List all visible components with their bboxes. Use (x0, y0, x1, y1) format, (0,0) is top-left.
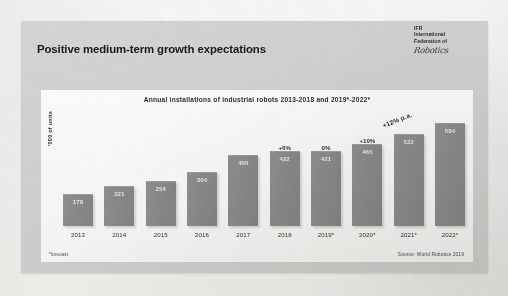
bar-value-label: 422 (270, 155, 300, 162)
bar-growth-label: +10% (352, 137, 382, 144)
bar-column: 2212014 (104, 114, 134, 226)
bar-value-label: 304 (187, 176, 217, 183)
bar-column: 5842022* (435, 114, 465, 226)
chart-footnote: *forecast (49, 252, 68, 257)
x-axis-tick-label: 2013 (59, 231, 97, 238)
bar-column: 422+6%2018 (270, 114, 300, 226)
x-axis-tick-label: 2018 (266, 231, 304, 238)
presentation-slide: Positive medium-term growth expectations… (21, 21, 488, 273)
bar-column: 2542015 (146, 114, 176, 226)
bar-value-label: 221 (104, 190, 134, 197)
bar: 400 (228, 155, 258, 226)
logo-line-federation-of: Federation of (414, 38, 474, 44)
bar-value-label: 254 (146, 185, 176, 192)
slide-headline: Positive medium-term growth expectations (37, 43, 266, 55)
bar-value-label: 522 (394, 138, 424, 145)
chart-panel: Annual installations of industrial robot… (41, 90, 473, 262)
bar: 584 (435, 123, 465, 226)
bar: 522 (394, 134, 424, 226)
bar-value-label: 584 (435, 127, 465, 134)
x-axis-tick-label: 2014 (100, 231, 138, 238)
logo-wordmark-robotics: Robotics (413, 45, 475, 56)
chart-title: Annual installations of industrial robot… (41, 96, 473, 103)
x-axis-tick-label: 2016 (183, 231, 221, 238)
bar: 421 (311, 151, 341, 226)
bar: 304 (187, 172, 217, 226)
x-axis-tick-label: 2022* (431, 231, 469, 238)
bar-growth-label: +6% (270, 144, 300, 151)
bar-value-label: 400 (228, 159, 258, 166)
bar-value-label: 178 (63, 198, 93, 205)
bar-column: 3042016 (187, 114, 217, 226)
y-axis-label: '000 of units (47, 86, 53, 146)
x-axis-tick-label: 2019* (307, 231, 345, 238)
bar: 254 (146, 181, 176, 226)
bar: 221 (104, 186, 134, 226)
chart-source: Source: World Robotics 2019 (398, 252, 464, 257)
bar-column: 465+10%2020* (352, 114, 382, 226)
x-axis-tick-label: 2015 (142, 231, 180, 238)
bar-value-label: 421 (311, 155, 341, 162)
bar-growth-label: 0% (311, 144, 341, 151)
bar: 465 (352, 144, 382, 226)
x-axis-tick-label: 2017 (224, 231, 262, 238)
bar: 178 (63, 194, 93, 226)
bar-column: 4210%2019* (311, 114, 341, 226)
scanned-page-background: the influence of the 2018 market and a m… (0, 0, 508, 296)
ifr-logo: IFR International Federation of Robotics (414, 25, 474, 56)
bar-column: 4002017 (228, 114, 258, 226)
bar-column: 5222021* (394, 114, 424, 226)
x-axis-tick-label: 2020* (348, 231, 386, 238)
bar-chart-plot-area: 17820132212014254201530420164002017422+6… (63, 114, 465, 226)
bar: 422 (270, 151, 300, 226)
bar-value-label: 465 (352, 148, 382, 155)
bar-column: 1782013 (63, 114, 93, 226)
x-axis-tick-label: 2021* (390, 231, 428, 238)
